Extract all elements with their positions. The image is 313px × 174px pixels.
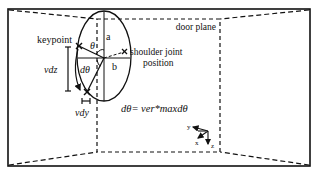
- b-label: b: [112, 61, 117, 72]
- theta-label: θ: [90, 40, 95, 51]
- axis-y-label: y: [187, 123, 191, 131]
- door-plane-rect: [97, 19, 220, 152]
- shoulder-label-line2: position: [143, 58, 174, 68]
- door-plane-label: door plane: [176, 22, 216, 32]
- vdz-bracket: [65, 47, 71, 91]
- equation-label: dθ= ver*maxdθ: [121, 103, 188, 114]
- axis-x-label: x: [195, 139, 199, 147]
- vdy-bracket: [82, 98, 90, 104]
- door-plane-diagram: door plane keypoint a b θ dθ shoulder jo…: [0, 0, 313, 174]
- keypoint-marker-icon: [76, 43, 82, 49]
- dtheta-label: dθ: [80, 64, 90, 75]
- shoulder-marker-icon: [122, 49, 127, 54]
- keypoint-label: keypoint: [37, 34, 72, 45]
- axis-z-label: z: [211, 142, 214, 150]
- shoulder-dashed-line: [104, 52, 124, 58]
- vdy-label: vdy: [75, 107, 89, 118]
- outer-frame: [8, 9, 310, 166]
- vdz-label: vdz: [44, 64, 57, 75]
- a-label: a: [106, 31, 111, 42]
- shoulder-label-line1: shoulder joint: [130, 47, 183, 57]
